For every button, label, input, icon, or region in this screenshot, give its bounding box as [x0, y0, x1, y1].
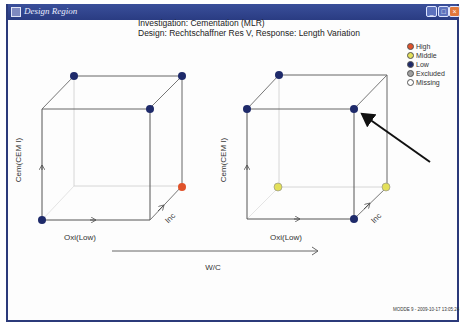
y-axis-label-left: Cem(CEM I) — [14, 137, 23, 182]
design-region-plot: Cem(CEM I) Cem(CEM I) Oxi(Low) Oxi(Low) … — [0, 0, 467, 324]
y-axis-label-right: Cem(CEM I) — [219, 137, 228, 182]
z-axis-label-right: Inc — [369, 211, 383, 225]
point-high[interactable] — [178, 183, 186, 191]
point-low[interactable] — [275, 71, 283, 79]
point-middle[interactable] — [274, 183, 282, 191]
point-low[interactable] — [146, 105, 154, 113]
z-axis-label-left: Inc — [163, 211, 177, 225]
point-low[interactable] — [350, 105, 358, 113]
point-low[interactable] — [38, 216, 46, 224]
annotation-arrow — [362, 114, 430, 162]
x-axis-label-right: Oxi(Low) — [270, 233, 302, 242]
wc-label: W/C — [205, 263, 221, 272]
point-low[interactable] — [70, 72, 78, 80]
point-middle[interactable] — [382, 183, 390, 191]
point-low[interactable] — [178, 72, 186, 80]
right-cube — [243, 71, 390, 223]
point-low[interactable] — [243, 105, 251, 113]
point-low[interactable] — [350, 215, 358, 223]
x-axis-label-left: Oxi(Low) — [64, 233, 96, 242]
footer-stamp: MODDE 9 - 2009-10-17 13:05:24 — [393, 307, 459, 312]
left-cube — [38, 72, 186, 224]
